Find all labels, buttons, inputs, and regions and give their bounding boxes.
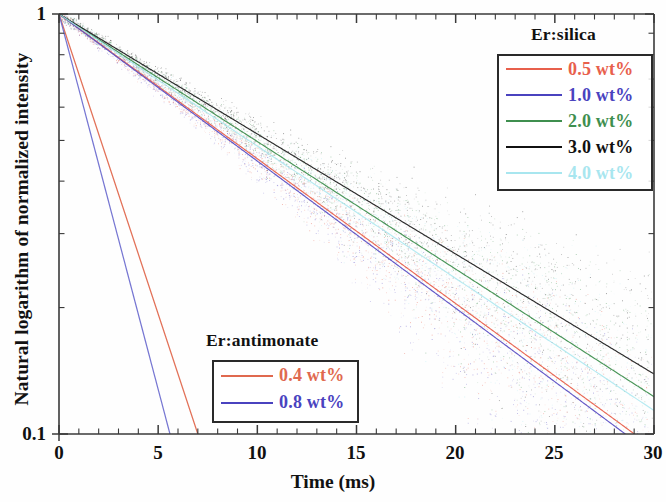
legend-item-antimonate-1[interactable]: 0.8 wt% xyxy=(214,389,357,416)
legend-label: 3.0 wt% xyxy=(568,137,633,158)
legend-item-silica-4[interactable]: 4.0 wt% xyxy=(499,160,651,186)
legend-item-silica-3[interactable]: 3.0 wt% xyxy=(499,134,651,160)
legend-item-silica-1[interactable]: 1.0 wt% xyxy=(499,82,651,108)
legend-swatch-icon xyxy=(506,120,562,122)
legend-silica-title: Er:silica xyxy=(531,24,596,45)
legend-label: 0.5 wt% xyxy=(568,59,633,80)
legend-silica-box: 0.5 wt% 1.0 wt% 2.0 wt% 3.0 wt% 4.0 wt% xyxy=(497,54,653,191)
legend-label: 4.0 wt% xyxy=(568,163,633,184)
legend-antimonate-title: Er:antimonate xyxy=(206,330,318,351)
y-axis-title: Natural logarithm of normalized intensit… xyxy=(11,19,33,439)
x-tick-label-10: 10 xyxy=(242,442,272,464)
x-axis-title: Time (ms) xyxy=(0,471,666,493)
legend-label: 0.4 wt% xyxy=(279,365,344,386)
legend-antimonate-box: 0.4 wt% 0.8 wt% xyxy=(212,360,359,423)
legend-swatch-icon xyxy=(221,402,273,404)
chart-figure: Natural logarithm of normalized intensit… xyxy=(0,0,666,502)
legend-label: 0.8 wt% xyxy=(279,392,344,413)
x-tick-label-5: 5 xyxy=(143,442,173,464)
legend-swatch-icon xyxy=(506,172,562,174)
legend-swatch-icon xyxy=(221,375,273,377)
legend-label: 1.0 wt% xyxy=(568,85,633,106)
legend-label: 2.0 wt% xyxy=(568,111,633,132)
x-tick-label-25: 25 xyxy=(539,442,569,464)
legend-item-silica-2[interactable]: 2.0 wt% xyxy=(499,108,651,134)
x-tick-label-15: 15 xyxy=(341,442,371,464)
legend-swatch-icon xyxy=(506,94,562,96)
legend-item-antimonate-0[interactable]: 0.4 wt% xyxy=(214,362,357,389)
y-tick-label-1: 1 xyxy=(18,3,46,25)
x-tick-label-20: 20 xyxy=(440,442,470,464)
x-tick-label-30: 30 xyxy=(638,442,666,464)
x-tick-label-0: 0 xyxy=(44,442,74,464)
y-tick-label-0.1: 0.1 xyxy=(4,423,46,445)
legend-swatch-icon xyxy=(506,68,562,70)
legend-swatch-icon xyxy=(506,146,562,148)
legend-item-silica-0[interactable]: 0.5 wt% xyxy=(499,56,651,82)
